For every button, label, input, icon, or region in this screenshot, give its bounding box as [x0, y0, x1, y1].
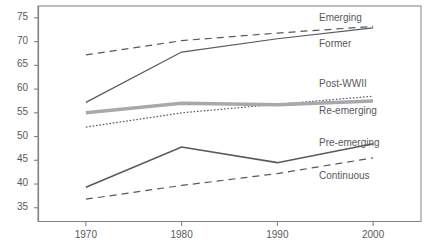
y-axis-tick-label: 40 — [4, 177, 28, 188]
series-label-continuous: Continuous — [319, 170, 370, 181]
y-axis-tick-label: 75 — [4, 11, 28, 22]
y-axis-tick-label: 70 — [4, 35, 28, 46]
x-axis-tick-label: 2000 — [353, 229, 393, 240]
y-axis-tick-label: 45 — [4, 153, 28, 164]
series-label-re-emerging: Re-emerging — [319, 105, 377, 116]
y-axis-tick-label: 60 — [4, 82, 28, 93]
y-axis-tick-label: 35 — [4, 201, 28, 212]
y-axis-tick-label: 65 — [4, 58, 28, 69]
series-label-pre-emerging: Pre-emerging — [319, 137, 380, 148]
line-chart: 354045505560657075 1970198019902000 Emer… — [0, 0, 428, 246]
y-axis-tick-label: 55 — [4, 106, 28, 117]
x-axis-ticks — [86, 222, 373, 226]
x-axis-tick-label: 1980 — [162, 229, 202, 240]
series-label-former: Former — [319, 38, 351, 49]
x-axis-tick-label: 1970 — [66, 229, 106, 240]
x-axis-tick-label: 1990 — [257, 229, 297, 240]
series-label-emerging: Emerging — [319, 12, 362, 23]
y-axis-tick-label: 50 — [4, 130, 28, 141]
plot-area — [0, 0, 428, 246]
series-label-post-wwii: Post-WWII — [319, 78, 367, 89]
